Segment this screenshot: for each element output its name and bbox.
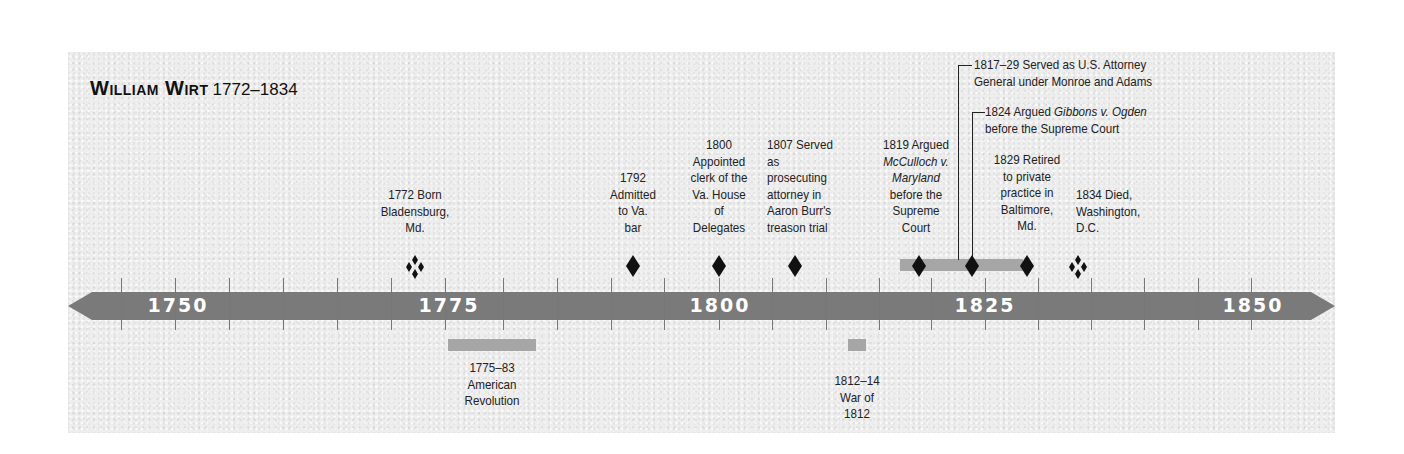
birth-marker-icon (405, 255, 425, 279)
event-diamond-icon-1819 (912, 255, 926, 277)
tick (1091, 278, 1092, 330)
tick (772, 278, 773, 330)
tick (664, 278, 665, 330)
tick (931, 278, 932, 330)
event-label-retired: 1829 Retired to private practice in Balt… (984, 152, 1070, 235)
event-diamond-icon-1800 (712, 255, 726, 277)
tick (879, 278, 880, 330)
event-label-gibbons: 1824 Argued Gibbons v. Ogden before the … (985, 104, 1147, 137)
span-bar-war-of-1812 (848, 339, 866, 351)
axis-label-1825: 1825 (955, 294, 1016, 316)
tick (391, 278, 392, 330)
axis-label-1750: 1750 (148, 294, 209, 316)
event-label-mcculloch: 1819 Argued McCulloch v. Maryland before… (873, 137, 959, 236)
tick (1144, 278, 1145, 330)
tick (826, 278, 827, 330)
event-diamond-icon-1807 (788, 255, 802, 277)
tick (337, 278, 338, 330)
event-label-admitted-bar: 1792 Admitted to Va. bar (590, 170, 676, 236)
tick (503, 278, 504, 330)
timeline-title: William Wirt1772–1834 (90, 77, 298, 100)
leader-line-gibbons (972, 112, 973, 262)
death-marker-icon (1068, 255, 1088, 279)
tick (229, 278, 230, 330)
event-diamond-icon-1792 (626, 255, 640, 277)
tick (557, 278, 558, 330)
event-label-burr-trial: 1807 Served as prosecuting attorney in A… (767, 137, 833, 236)
event-diamond-icon-1824 (965, 255, 979, 277)
event-label-attorney-general: 1817–29 Served as U.S. Attorney General … (974, 57, 1152, 90)
leader-line-attorney-general-h (958, 65, 972, 66)
world-event-label-revolution: 1775–83 American Revolution (449, 360, 535, 410)
axis-label-1800: 1800 (690, 294, 751, 316)
leader-line-gibbons-h (972, 112, 985, 113)
event-label-clerk: 1800 Appointed clerk of the Va. House of… (676, 137, 762, 236)
span-bar-american-revolution (448, 339, 536, 351)
event-diamond-icon-1829 (1020, 255, 1034, 277)
tick (121, 278, 122, 330)
tick (1198, 278, 1199, 330)
event-label-born: 1772 Born Bladensburg, Md. (368, 187, 463, 237)
axis-label-1850: 1850 (1223, 294, 1284, 316)
world-event-label-war-1812: 1812–14 War of 1812 (814, 373, 900, 423)
tick (283, 278, 284, 330)
tick (1038, 278, 1039, 330)
tick (611, 278, 612, 330)
axis-label-1775: 1775 (419, 294, 480, 316)
title-years: 1772–1834 (213, 80, 298, 99)
event-label-died: 1834 Died, Washington, D.C. (1076, 187, 1140, 237)
title-name: William Wirt (90, 77, 209, 99)
